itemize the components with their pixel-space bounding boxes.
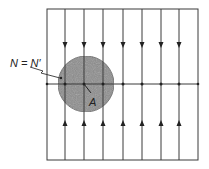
field-line-diagram: A N = N′ [0,0,209,169]
down-arrow-icons [63,42,182,48]
up-arrow-icons [63,120,182,126]
area-label: A [88,96,96,108]
null-point-label: N = N′ [10,57,41,69]
null-point-dot [60,77,62,79]
